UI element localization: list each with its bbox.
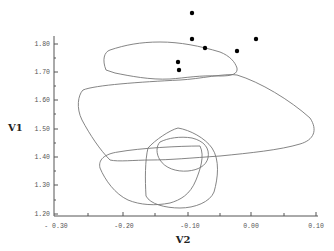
- contour-lower-middle: [145, 128, 217, 208]
- y-tick-label: 1.40: [34, 154, 50, 161]
- y-tick-label: 1.60: [34, 97, 50, 104]
- data-point: [235, 49, 239, 53]
- x-tick-label: -0.20: [114, 223, 134, 230]
- data-point: [203, 46, 207, 50]
- data-point: [177, 68, 181, 72]
- x-axis-title: V2: [175, 234, 191, 245]
- x-tick-label: - 0.30: [44, 223, 68, 230]
- y-axis-title: V1: [7, 122, 23, 133]
- axes: [54, 36, 318, 216]
- y-tick-label: 1.20: [34, 211, 50, 218]
- contour-group: [78, 42, 314, 208]
- y-tick-label: 1.80: [34, 41, 50, 48]
- x-tick-label: -0.10: [180, 223, 200, 230]
- data-point: [176, 60, 180, 64]
- contour-upper-ellipse: [104, 42, 237, 79]
- y-tick-label: 1.50: [34, 126, 50, 133]
- point-group: [176, 11, 258, 72]
- scatter-chart: 1.80 1.70 1.60 1.50 1.40 1.30 1.20 - 0.3…: [0, 0, 334, 251]
- x-tick-label: 0.10: [308, 223, 324, 230]
- data-point: [190, 11, 194, 15]
- y-tick-labels: 1.80 1.70 1.60 1.50 1.40 1.30 1.20: [34, 41, 50, 218]
- contour-lower-left: [100, 146, 202, 205]
- contour-large-ellipse: [78, 75, 314, 161]
- x-tick-label: 0.00: [243, 223, 259, 230]
- data-point: [190, 37, 194, 41]
- y-tick-label: 1.30: [34, 182, 50, 189]
- y-tick-label: 1.70: [34, 69, 50, 76]
- x-tick-labels: - 0.30 -0.20 -0.10 0.00 0.10: [44, 223, 324, 230]
- data-point: [254, 37, 258, 41]
